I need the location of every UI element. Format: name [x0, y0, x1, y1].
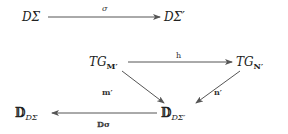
- node-tg-n-main: TG: [236, 55, 254, 69]
- node-dd-d-sigma-prime-sub: DΣ′: [171, 113, 185, 122]
- node-tg-m-prime: TGM′: [89, 56, 118, 70]
- node-d-sigma: DΣ: [22, 11, 40, 23]
- label-sigma: σ: [102, 5, 107, 13]
- node-d-sigma-prime-text: DΣ′: [164, 10, 185, 24]
- label-h: h: [176, 52, 181, 60]
- label-n-prime: n′: [214, 88, 222, 96]
- label-m-prime: m′: [102, 88, 113, 96]
- label-dd-sigma: 𝔻σ: [97, 120, 110, 128]
- node-dd-d-sigma: 𝔻DΣ: [15, 107, 37, 122]
- node-dd-d-sigma-prime: 𝔻DΣ′: [161, 107, 185, 122]
- node-tg-m-sub: M′: [107, 61, 118, 71]
- arrow-m-prime: [122, 71, 164, 103]
- node-d-sigma-prime: DΣ′: [164, 11, 185, 23]
- node-tg-m-main: TG: [89, 55, 107, 69]
- node-dd-d-sigma-sub: DΣ: [25, 113, 37, 122]
- node-d-sigma-text: DΣ: [22, 10, 40, 24]
- node-dd-d-sigma-main: 𝔻: [15, 106, 25, 120]
- node-dd-d-sigma-prime-main: 𝔻: [161, 106, 171, 120]
- node-tg-n-sub: N′: [254, 61, 263, 71]
- node-tg-n-prime: TGN′: [236, 56, 263, 70]
